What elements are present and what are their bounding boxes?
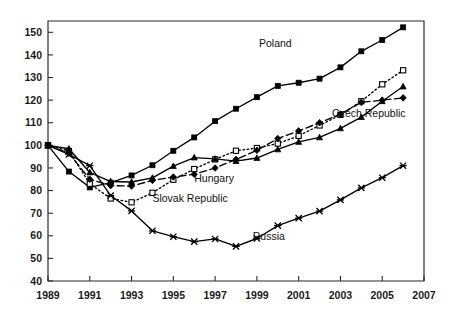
y-axis-tick-label: 150	[24, 26, 42, 38]
series-line-czech-republic	[48, 87, 403, 182]
chart-canvas: 405060708090100110120130140150 198919911…	[0, 0, 452, 316]
x-axis-tick-mark-group	[48, 276, 424, 281]
data-point-russia	[379, 175, 386, 181]
data-point-russia	[212, 236, 219, 242]
series-label-czech-republic: Czech Republic	[332, 107, 406, 119]
data-point-poland	[234, 106, 239, 111]
data-point-russia	[295, 215, 302, 221]
x-axis-tick-label-group: 1989199119931995199719992001200320052007	[36, 289, 436, 301]
data-point-slovak-republic	[380, 82, 385, 87]
data-point-poland	[129, 173, 134, 178]
data-point-russia	[358, 185, 365, 191]
data-point-russia	[232, 243, 239, 249]
series-label-hungary: Hungary	[194, 172, 234, 184]
data-point-russia	[86, 163, 93, 169]
x-axis-tick-label: 2001	[287, 289, 311, 301]
y-axis-tick-label: 130	[24, 71, 42, 83]
data-point-hungary	[212, 165, 218, 172]
series-label-russia: Russia	[253, 230, 285, 242]
series-label-slovak-republic: Slovak Republic	[152, 192, 227, 204]
x-axis-tick-label: 1993	[120, 289, 144, 301]
data-point-russia	[170, 234, 177, 240]
data-point-russia	[274, 223, 281, 229]
data-point-russia	[191, 239, 198, 245]
data-point-slovak-republic	[401, 68, 406, 73]
data-point-poland	[359, 49, 364, 54]
data-series-group	[48, 27, 403, 246]
data-point-russia	[128, 208, 135, 214]
data-point-poland	[192, 135, 197, 140]
series-label-poland: Poland	[259, 37, 292, 49]
data-point-poland	[317, 76, 322, 81]
data-point-czech-republic	[400, 83, 406, 89]
data-point-russia	[149, 228, 156, 234]
data-point-slovak-republic	[129, 200, 134, 205]
y-axis-tick-label: 60	[30, 229, 42, 241]
y-axis-tick-label-group: 405060708090100110120130140150	[24, 26, 42, 287]
x-axis-tick-label: 1997	[203, 289, 227, 301]
data-point-poland	[275, 83, 280, 88]
data-point-poland	[338, 65, 343, 70]
data-point-poland	[401, 25, 406, 30]
y-axis-tick-label: 50	[30, 252, 42, 264]
data-point-poland	[380, 37, 385, 42]
y-axis-tick-label: 120	[24, 94, 42, 106]
data-point-hungary	[400, 95, 406, 102]
data-point-russia	[337, 197, 344, 203]
data-point-russia	[400, 163, 407, 169]
y-axis-tick-label: 70	[30, 207, 42, 219]
data-point-poland	[213, 119, 218, 124]
data-point-poland	[150, 163, 155, 168]
data-point-russia	[316, 208, 323, 214]
y-axis-tick-mark-group	[48, 32, 53, 281]
x-axis-tick-label: 2005	[371, 289, 395, 301]
data-point-poland	[296, 80, 301, 85]
y-axis-tick-label: 90	[30, 162, 42, 174]
x-axis-tick-label: 1991	[78, 289, 102, 301]
y-axis-tick-label: 40	[30, 275, 42, 287]
x-axis-tick-label: 1999	[245, 289, 269, 301]
x-axis-tick-label: 1989	[36, 289, 60, 301]
y-axis-tick-label: 110	[25, 116, 42, 128]
x-axis-tick-label: 2007	[412, 289, 436, 301]
data-point-poland	[66, 169, 71, 174]
line-chart-figure: 405060708090100110120130140150 198919911…	[0, 0, 452, 316]
x-axis-tick-label: 2003	[329, 289, 353, 301]
y-axis-tick-label: 80	[30, 184, 42, 196]
data-point-poland	[171, 148, 176, 153]
data-point-poland	[254, 95, 259, 100]
y-axis-tick-label: 100	[24, 139, 42, 151]
data-point-slovak-republic	[233, 148, 238, 153]
y-axis-tick-label: 140	[24, 49, 42, 61]
x-axis-tick-label: 1995	[162, 289, 186, 301]
